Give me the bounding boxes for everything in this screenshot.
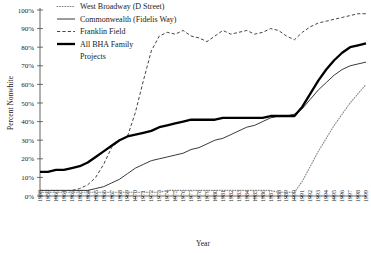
x-tick-label: 1979 xyxy=(204,190,210,202)
x-tick-label: 1978 xyxy=(196,190,202,202)
x-tick-label: 1981 xyxy=(220,190,226,202)
x-tick-label: 1992 xyxy=(307,190,313,202)
x-tick-label: 1994 xyxy=(323,190,329,202)
legend-label-3: All BHA Family xyxy=(80,40,133,49)
y-tick-label: 20% xyxy=(21,155,34,163)
x-tick-label: 1993 xyxy=(315,190,321,202)
x-axis-title: Year xyxy=(196,239,210,248)
legend-label-4: Projects xyxy=(80,52,106,61)
y-tick-label: 100% xyxy=(18,7,35,15)
x-tick-label: 1976 xyxy=(180,190,186,202)
x-tick-label: 1974 xyxy=(164,190,170,202)
y-tick-label: 50% xyxy=(21,100,34,108)
x-tick-label: 1977 xyxy=(188,190,194,202)
x-tick-label: 1985 xyxy=(252,190,258,202)
x-tick-label: 1995 xyxy=(331,190,337,202)
x-tick-label: 1983 xyxy=(236,190,242,202)
y-tick-label: 80% xyxy=(21,44,34,52)
x-tick-label: 1970 xyxy=(132,190,138,202)
x-tick-label: 1991 xyxy=(299,190,305,202)
y-axis-title: Percent Nonwhite xyxy=(6,75,15,130)
x-tick-label: 1982 xyxy=(228,190,234,202)
x-tick-label: 1987 xyxy=(268,190,274,202)
y-tick-label: 70% xyxy=(21,62,34,70)
series-line-0 xyxy=(40,84,366,192)
y-tick-label: 0% xyxy=(25,193,35,201)
x-tick-label: 1975 xyxy=(172,190,178,202)
y-tick-label: 30% xyxy=(21,137,34,145)
legend-label-0: West Broadway (D Street) xyxy=(80,2,165,11)
y-tick-label: 40% xyxy=(21,118,34,126)
line-chart: 0%10%20%30%40%50%60%70%80%90%100%Percent… xyxy=(0,0,371,253)
x-tick-label: 1998 xyxy=(355,190,361,202)
x-tick-label: 1984 xyxy=(244,190,250,202)
y-tick-label: 10% xyxy=(21,174,34,182)
y-tick-label: 90% xyxy=(21,25,34,33)
x-tick-label: 1980 xyxy=(212,190,218,202)
x-tick-label: 1986 xyxy=(260,190,266,202)
x-tick-label: 1999 xyxy=(363,190,369,202)
x-tick-label: 1996 xyxy=(339,190,345,202)
x-tick-label: 1997 xyxy=(347,190,353,202)
series-line-3 xyxy=(40,43,366,171)
legend-label-2: Franklin Field xyxy=(80,27,126,36)
y-tick-label: 60% xyxy=(21,81,34,89)
legend-label-1: Commonwealth (Fidelis Way) xyxy=(80,15,177,24)
chart-container: 0%10%20%30%40%50%60%70%80%90%100%Percent… xyxy=(0,0,371,253)
